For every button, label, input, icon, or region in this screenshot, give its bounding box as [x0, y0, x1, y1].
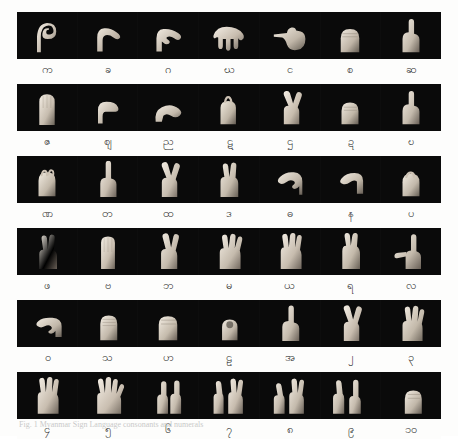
sign-label: အ: [259, 347, 320, 367]
hand-photo-cell: [199, 228, 260, 275]
hand-photo-cell: [260, 372, 321, 419]
hand-photo-cell: [78, 84, 139, 131]
sign-label: ဂ: [138, 59, 199, 79]
hand-sign-image: [328, 160, 373, 199]
chart-row: ဖ ဗ ဘ မ ယ ရ လ: [17, 228, 441, 295]
hand-sign-image: [206, 16, 251, 55]
hand-photo-cell: [199, 84, 260, 131]
hand-sign-image: [146, 160, 191, 199]
hand-sign-image: [206, 88, 251, 127]
hand-sign-image: [267, 16, 312, 55]
hand-photo-cell: [138, 12, 199, 59]
sign-label: ဖ: [17, 275, 78, 295]
hand-photo-cell: [138, 300, 199, 347]
hand-photo-cell: [138, 228, 199, 275]
hand-photo-cell: [17, 156, 78, 203]
hand-sign-image: [388, 16, 433, 55]
hand-sign-image: [388, 376, 433, 415]
hand-photo-cell: [199, 12, 260, 59]
sign-label: ဆ: [380, 59, 441, 79]
sign-label: ဌ: [259, 131, 320, 151]
sign-language-chart-figure: က ခ ဂ ဃ င စ ဆ: [17, 12, 441, 416]
label-strip: က ခ ဂ ဃ င စ ဆ: [17, 59, 441, 79]
hand-sign-image: [388, 88, 433, 127]
hand-photo-cell: [321, 372, 382, 419]
hand-photo-cell: [138, 84, 199, 131]
sign-label: ရ: [320, 275, 381, 295]
sign-label: ဃ: [199, 59, 260, 79]
sign-label: ဗ: [78, 275, 139, 295]
hand-sign-image: [267, 232, 312, 271]
hand-photo-cell: [199, 300, 260, 347]
hand-photo-cell: [260, 12, 321, 59]
hand-photo-cell: [78, 372, 139, 419]
hand-photo-cell: [17, 372, 78, 419]
label-strip: ဖ ဗ ဘ မ ယ ရ လ: [17, 275, 441, 295]
hand-sign-image: [146, 304, 191, 343]
hand-photo-cell: [78, 228, 139, 275]
hand-sign-image: [146, 16, 191, 55]
sign-label: က: [17, 59, 78, 79]
hand-photo-cell: [381, 300, 441, 347]
hand-photo-cell: [321, 156, 382, 203]
label-strip: ဏ တ ထ ဒ ဓ န ပ: [17, 203, 441, 223]
sign-label: ၂: [320, 347, 381, 367]
sign-label: ဝ: [17, 347, 78, 367]
sign-label: ဎ: [380, 131, 441, 151]
hand-sign-image: [146, 232, 191, 271]
chart-row: ဇ ဈ ည ဋ ဌ ဍ ဎ: [17, 84, 441, 151]
figure-caption: Fig. 1 Myanmar Sign Language consonants …: [19, 420, 439, 430]
hand-sign-image: [206, 232, 251, 271]
hand-sign-image: [24, 88, 69, 127]
hand-photo-cell: [381, 156, 441, 203]
photo-strip: [17, 12, 441, 59]
sign-label: ဒ: [199, 203, 260, 223]
hand-sign-image: [267, 160, 312, 199]
hand-sign-image: [24, 160, 69, 199]
hand-sign-image: [388, 232, 433, 271]
hand-sign-image: [388, 304, 433, 343]
hand-photo-cell: [17, 228, 78, 275]
hand-sign-image: [206, 376, 251, 415]
hand-sign-image: [328, 232, 373, 271]
hand-sign-image: [24, 16, 69, 55]
sign-label: င: [259, 59, 320, 79]
chart-row: က ခ ဂ ဃ င စ ဆ: [17, 12, 441, 79]
hand-sign-image: [85, 304, 130, 343]
chart-row: ဝ သ ဟ ဠ အ ၂ ၃: [17, 300, 441, 367]
sign-label: စ: [320, 59, 381, 79]
hand-photo-cell: [321, 84, 382, 131]
label-strip: ဝ သ ဟ ဠ အ ၂ ၃: [17, 347, 441, 367]
hand-photo-cell: [199, 156, 260, 203]
hand-sign-image: [85, 160, 130, 199]
photo-strip: [17, 228, 441, 275]
hand-photo-cell: [260, 300, 321, 347]
sign-label: ဋ: [199, 131, 260, 151]
hand-sign-image: [206, 160, 251, 199]
hand-sign-image: [328, 16, 373, 55]
hand-sign-image: [85, 232, 130, 271]
sign-label: ဟ: [138, 347, 199, 367]
hand-sign-image: [328, 88, 373, 127]
sign-label: ခ: [78, 59, 139, 79]
hand-photo-cell: [78, 156, 139, 203]
photo-strip: [17, 300, 441, 347]
hand-sign-image: [24, 232, 69, 271]
hand-photo-cell: [321, 300, 382, 347]
sign-label: ဈ: [78, 131, 139, 151]
sign-label: ဇ: [17, 131, 78, 151]
hand-sign-image: [267, 88, 312, 127]
hand-sign-image: [328, 376, 373, 415]
hand-photo-cell: [381, 228, 441, 275]
hand-photo-cell: [260, 228, 321, 275]
sign-label: ဏ: [17, 203, 78, 223]
sign-label: တ: [78, 203, 139, 223]
hand-photo-cell: [138, 156, 199, 203]
sign-label: မ: [199, 275, 260, 295]
hand-sign-image: [267, 304, 312, 343]
hand-sign-image: [24, 304, 69, 343]
sign-label: ဠ: [199, 347, 260, 367]
hand-photo-cell: [260, 156, 321, 203]
hand-photo-cell: [17, 84, 78, 131]
hand-sign-image: [24, 376, 69, 415]
